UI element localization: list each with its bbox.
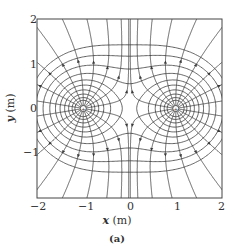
field-arrow-icon <box>92 60 95 63</box>
equipotential-curve <box>56 80 204 137</box>
field-arrow-icon <box>223 115 226 118</box>
y-tick-2: 2 <box>30 14 37 25</box>
x-axis-label: x (m) <box>102 214 131 227</box>
field-line <box>177 55 231 107</box>
field-arrow-icon <box>131 124 134 127</box>
charge-sign: + <box>81 106 85 112</box>
x-tick-0: 0 <box>127 201 134 212</box>
equipotential-curve <box>50 73 209 143</box>
equipotential-curve <box>36 55 224 161</box>
field-arrow-icon <box>92 153 95 156</box>
field-lines <box>27 10 231 208</box>
field-arrow-icon <box>33 115 36 118</box>
field-line <box>177 110 231 162</box>
x-tick-neg2: −2 <box>30 201 46 212</box>
field-arrow-icon <box>125 124 128 127</box>
field-line <box>58 10 83 106</box>
field-arrow-icon <box>125 90 128 93</box>
field-arrow-icon <box>164 60 167 63</box>
field-line <box>58 111 83 207</box>
equipotential-curve <box>28 45 231 172</box>
equipotential-curve <box>75 100 184 116</box>
field-arrow-icon <box>164 153 167 156</box>
y-tick-1: 1 <box>30 59 37 70</box>
x-tick-2: 2 <box>218 201 225 212</box>
charge-sign: + <box>174 106 178 112</box>
equipotential-curves <box>28 45 231 172</box>
field-arrow-icon <box>223 99 226 102</box>
y-tick-neg1: −1 <box>23 147 39 158</box>
y-axis-label: y (m) <box>4 94 17 123</box>
figure-caption: (a) <box>109 233 125 244</box>
x-tick-neg1: −1 <box>78 201 94 212</box>
y-tick-0: 0 <box>30 103 37 114</box>
x-tick-1: 1 <box>174 201 181 212</box>
field-arrow-icon <box>131 90 134 93</box>
